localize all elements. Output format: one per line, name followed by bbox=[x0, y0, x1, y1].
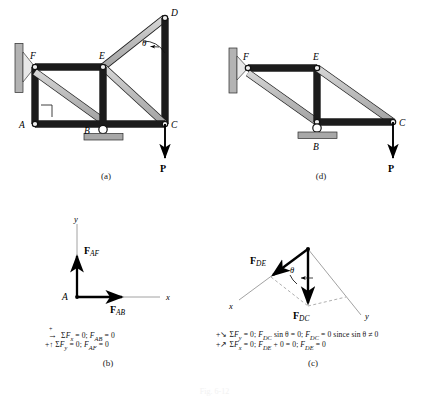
member-AE bbox=[35, 72, 103, 121]
label-C-d: C bbox=[399, 118, 406, 128]
member-ED bbox=[103, 18, 165, 67]
equation-b-line2: +↑ ΣFy = 0; FAF = 0 bbox=[45, 340, 109, 351]
label-E-d: E bbox=[312, 52, 319, 62]
equation-c-line2: +↗ ΣFx = 0; FDE + 0 = 0; FDE = 0 bbox=[216, 340, 326, 351]
wall-support-a bbox=[15, 44, 23, 93]
label-B-d: B bbox=[313, 142, 319, 152]
axis-label-x-b: x bbox=[165, 292, 170, 302]
fbd-c-joint-D: x y θ FDE FDC bbox=[215, 205, 429, 325]
axis-label-y-c: y bbox=[364, 311, 369, 321]
fbd-c-origin-dot bbox=[306, 247, 310, 251]
equation-c-line1: +↘ ΣFy = 0; FDC sin θ = 0; FDC = 0 since… bbox=[216, 330, 379, 341]
fbd-b-joint-A: y x A FAF FAB bbox=[20, 205, 210, 315]
angle-theta-marker-c bbox=[290, 275, 313, 284]
member-EC bbox=[103, 67, 165, 124]
caption-fbd-c: (c) bbox=[293, 358, 333, 368]
wall-support-d bbox=[229, 48, 237, 93]
force-label-FAF: FAF bbox=[84, 245, 100, 258]
force-label-FAB: FAB bbox=[110, 304, 126, 317]
label-E: E bbox=[98, 51, 105, 61]
label-F: F bbox=[29, 51, 36, 61]
panel-a-svg: D F E A B C θ P bbox=[0, 0, 215, 200]
fbd-b-svg: y x A FAF FAB bbox=[20, 205, 210, 315]
label-theta-c: θ bbox=[290, 265, 294, 275]
figure-number-caption: Fig. 6-12 bbox=[0, 387, 429, 396]
caption-panel-d: (d) bbox=[301, 171, 341, 181]
label-P-a: P bbox=[160, 163, 166, 174]
panel-a-truss: D F E A B C θ P bbox=[0, 0, 215, 200]
label-P-d: P bbox=[388, 163, 394, 174]
label-C: C bbox=[171, 120, 178, 130]
label-B: B bbox=[84, 126, 90, 136]
force-label-FDC: FDC bbox=[293, 310, 309, 323]
axis-label-y-b: y bbox=[73, 214, 78, 224]
fbd-b-origin-dot bbox=[75, 295, 79, 299]
label-D: D bbox=[170, 8, 178, 18]
member-EC-d bbox=[317, 68, 393, 122]
force-label-FDE: FDE bbox=[250, 255, 266, 268]
axis-label-x-c: x bbox=[228, 301, 233, 311]
caption-panel-a: (a) bbox=[86, 171, 126, 181]
right-angle-marker bbox=[41, 105, 52, 117]
label-theta-a: θ bbox=[142, 38, 147, 48]
label-A-b: A bbox=[61, 292, 68, 302]
label-A: A bbox=[18, 120, 25, 130]
roller-support-b-d bbox=[298, 124, 337, 139]
panel-d-truss: F E B C P bbox=[215, 0, 429, 200]
caption-fbd-b: (b) bbox=[88, 358, 128, 368]
fbd-c-svg: x y θ FDE FDC bbox=[215, 205, 429, 325]
panel-d-svg: F E B C P bbox=[215, 0, 429, 200]
label-F-d: F bbox=[242, 52, 249, 62]
fbd-b-axes bbox=[77, 224, 160, 297]
member-FB-d bbox=[248, 73, 317, 122]
